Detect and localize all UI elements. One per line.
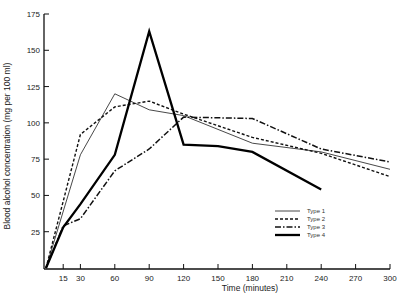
series-3: [46, 117, 390, 268]
legend-label: Type 4: [307, 232, 326, 238]
series-2: [46, 101, 390, 268]
series-line: [46, 117, 390, 268]
series-layer: [46, 31, 390, 268]
x-tick-label: 180: [246, 274, 260, 283]
x-tick-label: 270: [349, 274, 363, 283]
series-4: [46, 31, 321, 268]
line-chart: 255075100125150175 153060901201501802102…: [0, 0, 407, 296]
y-ticks: 255075100125150175: [27, 10, 49, 237]
legend: Type 1Type 2Type 3Type 4: [275, 208, 326, 238]
legend-item: Type 3: [275, 224, 326, 230]
y-tick-label: 100: [27, 119, 41, 128]
y-tick-label: 75: [31, 155, 40, 164]
x-ticks: 15306090120150180210240270300: [59, 264, 397, 283]
legend-item: Type 2: [275, 216, 326, 222]
legend-label: Type 1: [307, 208, 326, 214]
x-tick-label: 90: [145, 274, 154, 283]
x-tick-label: 15: [59, 274, 68, 283]
y-tick-label: 25: [31, 228, 40, 237]
series-line: [46, 31, 321, 268]
y-tick-label: 175: [27, 10, 41, 19]
x-axis-title: Time (minutes): [222, 283, 279, 293]
series-line: [46, 101, 390, 268]
x-tick-label: 150: [211, 274, 225, 283]
y-tick-label: 50: [31, 191, 40, 200]
axes: [44, 14, 390, 269]
legend-item: Type 1: [275, 208, 326, 214]
legend-item: Type 4: [275, 232, 326, 238]
legend-label: Type 2: [307, 216, 326, 222]
x-tick-label: 30: [76, 274, 85, 283]
y-tick-label: 125: [27, 83, 41, 92]
y-axis-title: Blood alcohol concentration (mg per 100 …: [2, 62, 12, 229]
x-tick-label: 210: [280, 274, 294, 283]
y-tick-label: 150: [27, 46, 41, 55]
x-tick-label: 300: [383, 274, 397, 283]
x-tick-label: 60: [110, 274, 119, 283]
legend-label: Type 3: [307, 224, 326, 230]
x-tick-label: 240: [315, 274, 329, 283]
x-tick-label: 120: [177, 274, 191, 283]
